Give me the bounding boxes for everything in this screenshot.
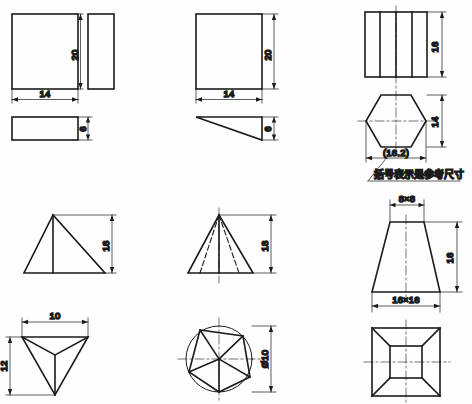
dim-label-20-b: 20 <box>262 50 273 61</box>
technical-drawing-canvas: 20 14 6 <box>0 0 472 404</box>
dim-label-14-b: 14 <box>224 88 235 99</box>
dim-label-18-pent: 18 <box>259 241 270 252</box>
dim-label-16x16: 16×16 <box>392 294 420 305</box>
dim-label-14-a: 14 <box>40 88 51 99</box>
dim-label-16-2-hex: (16.2) <box>383 147 409 158</box>
dim-label-6-a: 6 <box>77 126 88 131</box>
drawing-sheet: 20 14 6 <box>0 0 472 404</box>
dim-label-12-tetra: 12 <box>0 361 9 372</box>
dim-label-16-hex: 16 <box>429 42 440 53</box>
dim-label-8x8: 8×8 <box>399 193 416 204</box>
dim-label-10-tetra: 10 <box>50 310 61 321</box>
dim-label-14-hex: 14 <box>429 117 440 128</box>
dim-label-diameter-pent: Ø10 <box>259 350 270 369</box>
reference-dimension-note: 括号表示是参考尺寸 <box>374 168 464 180</box>
dim-label-18-tetra: 18 <box>100 241 111 252</box>
dim-label-16-frustum: 16 <box>444 253 455 264</box>
dim-label-6-b: 6 <box>262 126 273 131</box>
dim-label-20-a: 20 <box>69 50 80 61</box>
